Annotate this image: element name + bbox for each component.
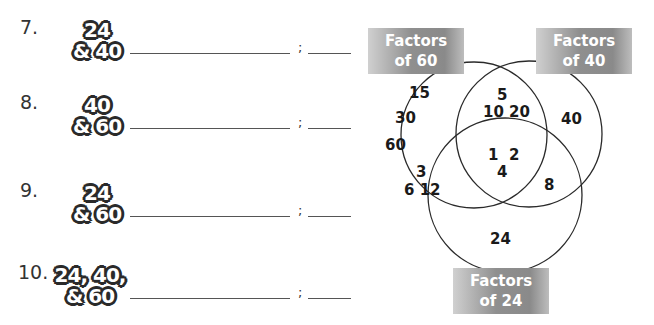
exercise-number: 8. xyxy=(20,91,38,113)
pair-line-1: 24 xyxy=(62,183,132,204)
region-60-40-value: 10 20 xyxy=(483,103,530,121)
region-60-24-value: 6 12 xyxy=(404,181,441,199)
exercise-8: 8. 40 & 60 ; xyxy=(0,75,360,145)
pair-line-2: & 60 xyxy=(50,286,130,307)
circle-factors-of-40 xyxy=(456,61,602,207)
exercise-number: 9. xyxy=(20,179,38,201)
exercise-7: 7. 24 & 40 ; xyxy=(0,0,360,70)
answer-line-gcf[interactable] xyxy=(308,53,351,54)
region-only-60-value: 60 xyxy=(385,136,406,154)
label-factors-of-24: Factors of 24 xyxy=(453,268,549,314)
label-line-1: Factors xyxy=(536,31,632,51)
region-only-40-value: 40 xyxy=(561,110,582,128)
region-only-60-value: 30 xyxy=(395,109,416,127)
answer-line-gcf[interactable] xyxy=(308,128,351,129)
exercise-10: 10. 24, 40, & 60 ; xyxy=(0,245,360,315)
answer-line-common-factors[interactable] xyxy=(130,298,290,299)
answer-line-common-factors[interactable] xyxy=(130,128,290,129)
pair-line-1: 24, 40, xyxy=(50,265,130,286)
label-line-1: Factors xyxy=(453,271,549,291)
region-60-24-value: 3 xyxy=(416,163,426,181)
label-factors-of-40: Factors of 40 xyxy=(536,28,632,74)
separator: ; xyxy=(298,40,302,55)
number-pair: 24 & 60 xyxy=(62,183,132,225)
number-pair: 24, 40, & 60 xyxy=(50,265,130,307)
exercise-9: 9. 24 & 60 ; xyxy=(0,163,360,233)
answer-line-common-factors[interactable] xyxy=(130,53,290,54)
exercise-number: 10. xyxy=(18,261,48,283)
region-all-three-value: 4 xyxy=(497,163,507,181)
pair-line-1: 40 xyxy=(62,95,132,116)
label-line-2: of 24 xyxy=(453,291,549,311)
pair-line-2: & 60 xyxy=(62,204,132,225)
region-only-24-value: 24 xyxy=(490,230,511,248)
label-line-1: Factors xyxy=(368,31,464,51)
region-all-three-value: 1 2 xyxy=(488,146,519,164)
separator: ; xyxy=(298,203,302,218)
region-60-40-value: 5 xyxy=(497,86,507,104)
region-40-24-value: 8 xyxy=(544,176,554,194)
separator: ; xyxy=(298,115,302,130)
answer-line-gcf[interactable] xyxy=(308,298,351,299)
answer-line-common-factors[interactable] xyxy=(130,216,290,217)
pair-line-2: & 60 xyxy=(62,116,132,137)
label-factors-of-60: Factors of 60 xyxy=(368,28,464,74)
label-line-2: of 40 xyxy=(536,51,632,71)
answer-line-gcf[interactable] xyxy=(308,216,351,217)
separator: ; xyxy=(298,285,302,300)
pair-line-2: & 40 xyxy=(62,41,132,62)
number-pair: 40 & 60 xyxy=(62,95,132,137)
exercise-number: 7. xyxy=(20,16,38,38)
pair-line-1: 24 xyxy=(62,20,132,41)
label-line-2: of 60 xyxy=(368,51,464,71)
number-pair: 24 & 40 xyxy=(62,20,132,62)
region-only-60-value: 15 xyxy=(409,84,430,102)
venn-diagram: Factors of 60 Factors of 40 Factors of 2… xyxy=(360,0,654,325)
circle-factors-of-24 xyxy=(428,118,582,272)
